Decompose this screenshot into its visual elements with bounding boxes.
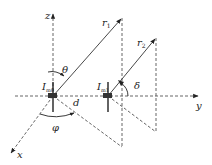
vector-r2 bbox=[108, 39, 155, 96]
current-m0-label: Im0 bbox=[41, 81, 54, 93]
y-axis-label: y bbox=[195, 100, 202, 111]
theta-label: θ bbox=[62, 64, 68, 75]
x-axis bbox=[11, 96, 53, 153]
vector-r1 bbox=[53, 19, 121, 96]
distance-label: d bbox=[73, 97, 79, 108]
current-m1-label: Im1 bbox=[96, 81, 109, 93]
delta-label: δ bbox=[134, 80, 140, 91]
feed-point-0 bbox=[48, 93, 57, 98]
r1-label: r1 bbox=[102, 17, 111, 29]
antenna-geometry-diagram: z y x θ δ φ d r1 r2 Im0 Im1 bbox=[0, 0, 212, 165]
phi-label: φ bbox=[52, 122, 59, 133]
projection-line-1 bbox=[53, 96, 122, 147]
r2-label: r2 bbox=[137, 37, 146, 49]
projection-line-2 bbox=[108, 96, 156, 132]
phi-arc bbox=[40, 113, 74, 117]
z-axis-label: z bbox=[44, 10, 51, 21]
feed-point-1 bbox=[103, 93, 112, 98]
x-axis-label: x bbox=[17, 149, 23, 160]
